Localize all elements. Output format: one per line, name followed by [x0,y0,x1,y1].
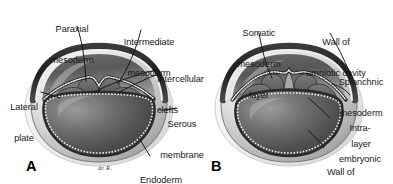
label-somatic-mesoderm-layer-line3: layer [226,90,292,100]
label-serous-membrane-line1: Serous [150,119,214,129]
label-lateral-plate-line2: plate [2,133,46,143]
label-endoderm: Endoderm [140,155,204,184]
label-lateral-plate: Lateral plate [2,82,46,164]
label-somatic-mesoderm-layer-line1: Somatic [226,28,292,38]
label-wall-of-amniotic-cavity-line1: Wall of [292,37,380,47]
label-splanchnic-mesoderm-layer-line1: Splanchnic [330,77,392,87]
label-endoderm-line1: Endoderm [140,175,204,184]
panel-letter-b: B [211,158,221,174]
label-lateral-plate-line1: Lateral [2,102,46,112]
label-wall-of-yolk-sac: Wall of yolk sac [327,147,391,184]
label-somatic-mesoderm-layer: Somatic mesoderm layer [226,8,292,120]
label-somatic-mesoderm-layer-line2: mesoderm [226,59,292,69]
label-intraembryonic-cavity-line1: Intra- [330,123,390,133]
label-paraxial-mesoderm-line2: mesoderm [36,55,108,65]
label-intercellular-clefts-line1: Intercellular [157,74,237,84]
label-intermediate-mesoderm-line1: Intermediate [108,37,190,47]
panel-letter-a: A [26,158,36,174]
label-paraxial-mesoderm: Paraxial mesoderm [36,4,108,86]
embryology-figure: Paraxial mesoderm Intermediate mesoderm … [0,0,393,184]
artist-signature: de R. [98,165,112,171]
label-paraxial-mesoderm-line1: Paraxial [36,24,108,34]
label-wall-of-yolk-sac-line1: Wall of [327,167,391,177]
